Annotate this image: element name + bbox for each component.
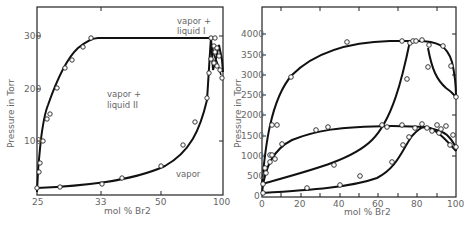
y-tick-4000: 4000 <box>241 29 264 39</box>
right-x-axis-title: mol % Br2 <box>344 207 391 217</box>
right-plot: 4000 3500 3000 2500 2000 1500 1000 500 0… <box>232 0 467 225</box>
x-tick-50: 50 <box>155 197 167 207</box>
y-tick-300: 300 <box>24 31 41 41</box>
left-y-axis-title: Pressure in Torr <box>6 79 16 148</box>
y-tick-200: 200 <box>24 84 41 94</box>
y-tick-500: 500 <box>247 171 264 181</box>
x-tick-100: 100 <box>447 199 464 209</box>
label-vapor-liquid-II: vapor +liquid II <box>107 89 141 110</box>
x-tick-80: 80 <box>411 199 423 209</box>
left-plot: 300 200 100 25 33 50 100 vapor +liquid I… <box>0 0 235 225</box>
left-x-axis-title: mol % Br2 <box>104 206 151 216</box>
y-tick-1500: 1500 <box>241 131 264 141</box>
label-vapor-liquid-I: vapor +liquid I <box>177 16 211 36</box>
y-tick-2500: 2500 <box>241 90 264 100</box>
y-tick-3500: 3500 <box>241 50 264 60</box>
y-tick-100: 100 <box>24 136 41 146</box>
x-tick-100: 100 <box>213 197 230 207</box>
right-chart: 4000 3500 3000 2500 2000 1500 1000 500 0… <box>232 0 467 225</box>
right-y-axis-title: Pressure in Torr <box>233 79 243 148</box>
y-tick-1000: 1000 <box>241 151 264 161</box>
label-vapor: vapor <box>176 169 201 179</box>
x-tick-20: 20 <box>294 199 306 209</box>
y-tick-2000: 2000 <box>241 110 264 120</box>
x-tick-0: 0 <box>259 199 265 209</box>
left-chart: 300 200 100 25 33 50 100 vapor +liquid I… <box>0 0 235 225</box>
x-tick-25: 25 <box>32 197 43 207</box>
x-tick-40: 40 <box>333 199 345 209</box>
y-tick-3000: 3000 <box>241 70 264 80</box>
